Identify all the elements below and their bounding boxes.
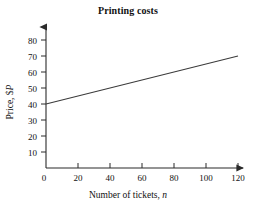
x-axis-ticks [78,163,238,168]
y-axis-label-variable: P [5,85,15,91]
y-tick-label: 80 [28,36,38,46]
y-tick-label: 60 [28,68,38,78]
origin-tick-label: 0 [42,173,47,183]
x-axis-label-text: Number of tickets, [89,190,162,200]
x-tick-label: 100 [199,173,213,183]
x-tick-labels: 20 40 60 80 100 120 [74,173,246,183]
y-axis-label: Price, $P [5,57,15,147]
y-tick-label: 40 [28,100,38,110]
x-axis-label-variable: n [162,190,167,200]
x-axis-label: Number of tickets, n [0,190,256,200]
y-tick-label: 70 [28,52,38,62]
y-tick-labels: 10 20 30 40 50 60 70 80 [28,36,38,158]
x-tick-label: 120 [231,173,245,183]
x-tick-label: 40 [106,173,116,183]
data-line-printing-cost [46,56,238,104]
printing-costs-chart: Printing costs [0,0,256,210]
y-axis-ticks [41,40,46,152]
y-tick-label: 10 [28,148,38,158]
y-tick-label: 50 [28,84,38,94]
x-tick-label: 20 [74,173,84,183]
x-tick-label: 80 [170,173,180,183]
x-tick-label: 60 [138,173,148,183]
y-axis-label-text: Price, $ [5,90,15,119]
y-tick-label: 30 [28,116,38,126]
chart-plot-area: 10 20 30 40 50 60 70 80 0 20 40 60 80 10… [0,0,256,210]
y-tick-label: 20 [28,132,38,142]
